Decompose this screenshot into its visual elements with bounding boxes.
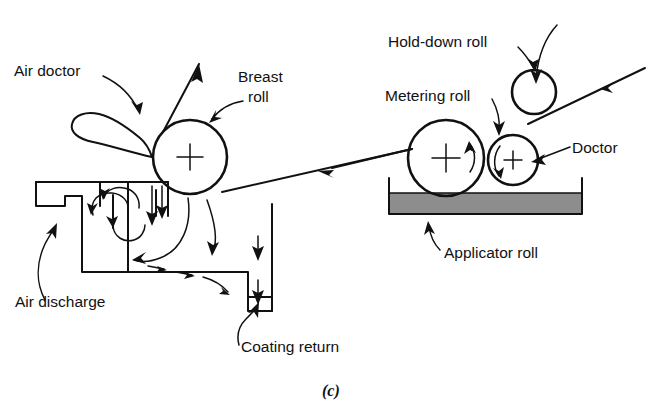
applicator-roll-leader <box>424 221 440 250</box>
label-doctor: Doctor <box>572 139 618 156</box>
diagram-canvas: Air doctor Breast roll Air discharge Coa… <box>0 0 661 416</box>
label-breast-roll-2: roll <box>248 88 269 105</box>
label-metering-roll: Metering roll <box>385 87 470 104</box>
hold-down-roll-leader <box>518 47 539 72</box>
label-applicator-roll: Applicator roll <box>444 244 538 261</box>
label-air-discharge: Air discharge <box>15 293 105 310</box>
label-coating-return: Coating return <box>241 338 339 355</box>
doctor-roll <box>488 135 538 185</box>
coating-diagram-svg: Air doctor Breast roll Air discharge Coa… <box>0 0 661 416</box>
air-discharge-leader <box>38 223 57 300</box>
metering-applicator-roll <box>408 120 484 196</box>
air-chamber <box>36 182 272 311</box>
breast-roll-leader <box>209 101 243 123</box>
metering-roll-leader <box>492 99 505 136</box>
figure-caption: (c) <box>322 382 340 400</box>
hold-down-roll-rotation <box>530 25 557 84</box>
label-hold-down-roll: Hold-down roll <box>388 33 487 50</box>
label-air-doctor: Air doctor <box>14 62 80 79</box>
web-exit-far-left <box>332 149 412 168</box>
air-doctor-leader <box>103 76 143 115</box>
air-doctor-blade <box>72 113 152 157</box>
web-entry-right <box>528 68 645 124</box>
label-breast-roll-1: Breast <box>238 68 283 85</box>
